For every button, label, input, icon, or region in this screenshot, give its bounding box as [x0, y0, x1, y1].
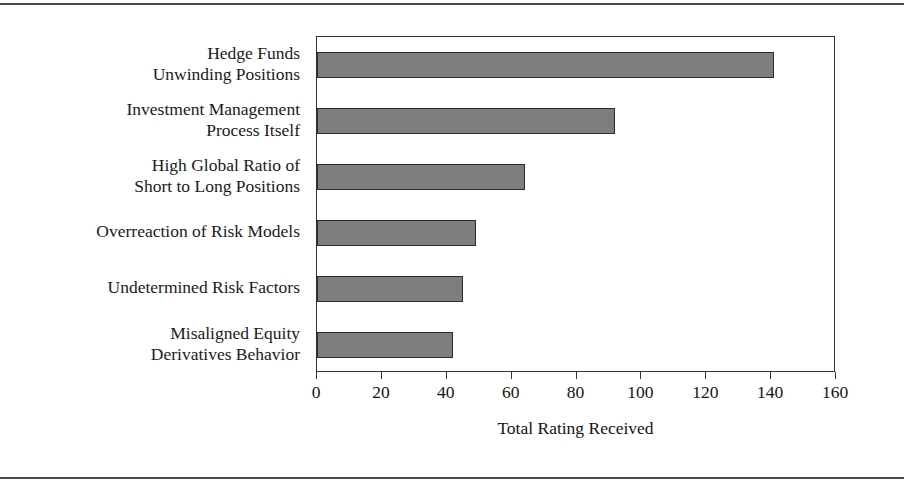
- bar-row: [317, 205, 834, 261]
- x-axis-ticks: [316, 372, 835, 380]
- bar-row: [317, 261, 834, 317]
- bar-row: [317, 317, 834, 373]
- category-label: Investment Management Process Itself: [6, 92, 308, 148]
- x-axis-tick-label: 60: [502, 381, 520, 403]
- bar-row: [317, 149, 834, 205]
- bottom-divider-rule: [0, 477, 904, 479]
- bar[interactable]: [317, 220, 476, 246]
- x-axis-tick-label: 140: [757, 381, 783, 403]
- category-label-text: Overreaction of Risk Models: [96, 221, 308, 243]
- x-axis-tick-label: 0: [312, 381, 321, 403]
- plot-area: [316, 36, 835, 372]
- category-label-text: Misaligned Equity Derivatives Behavior: [151, 323, 308, 366]
- bar[interactable]: [317, 332, 453, 358]
- x-axis-tick-label: 40: [437, 381, 455, 403]
- bar[interactable]: [317, 108, 615, 134]
- category-label: Misaligned Equity Derivatives Behavior: [6, 316, 308, 372]
- x-axis-tick: [705, 372, 706, 379]
- x-axis-tick: [381, 372, 382, 379]
- bar-row: [317, 93, 834, 149]
- category-label-text: Hedge Funds Unwinding Positions: [153, 43, 308, 86]
- x-axis-tick-label: 80: [567, 381, 585, 403]
- x-axis-tick: [446, 372, 447, 379]
- category-label-text: Undetermined Risk Factors: [108, 277, 308, 299]
- x-axis-tick: [770, 372, 771, 379]
- category-label: Overreaction of Risk Models: [6, 204, 308, 260]
- x-axis-tick: [835, 372, 836, 379]
- bar[interactable]: [317, 276, 463, 302]
- category-label: High Global Ratio of Short to Long Posit…: [6, 148, 308, 204]
- x-axis-tick-labels: 020406080100120140160: [316, 381, 835, 405]
- bar[interactable]: [317, 52, 774, 78]
- x-axis-tick: [640, 372, 641, 379]
- top-divider-rule: [0, 3, 904, 5]
- bar[interactable]: [317, 164, 525, 190]
- x-axis-tick-label: 100: [627, 381, 653, 403]
- x-axis-tick-label: 120: [692, 381, 718, 403]
- x-axis-tick: [316, 372, 317, 379]
- x-axis-tick-label: 20: [372, 381, 390, 403]
- chart-figure: Hedge Funds Unwinding PositionsInvestmen…: [0, 0, 904, 488]
- category-label-text: High Global Ratio of Short to Long Posit…: [134, 155, 308, 198]
- x-axis-tick: [576, 372, 577, 379]
- bar-row: [317, 37, 834, 93]
- category-axis-labels: Hedge Funds Unwinding PositionsInvestmen…: [6, 36, 308, 372]
- x-axis-tick: [511, 372, 512, 379]
- category-label-text: Investment Management Process Itself: [127, 99, 309, 142]
- x-axis-tick-label: 160: [822, 381, 848, 403]
- x-axis-title: Total Rating Received: [316, 418, 835, 439]
- category-label: Hedge Funds Unwinding Positions: [6, 36, 308, 92]
- category-label: Undetermined Risk Factors: [6, 260, 308, 316]
